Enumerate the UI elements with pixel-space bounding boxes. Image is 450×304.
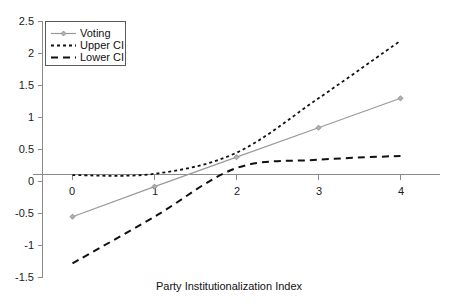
x-tick-label-3: 3 xyxy=(316,185,322,197)
x-tick-label-2: 2 xyxy=(234,185,240,197)
y-tick-label-neg0_5: -0.5 xyxy=(15,207,34,219)
y-tick-label-0: 0 xyxy=(28,175,34,187)
series-line-lower-ci xyxy=(73,156,401,264)
x-tick-label-0: 0 xyxy=(69,185,75,197)
y-axis-ticks xyxy=(38,22,43,278)
y-tick-label-2_5: 2.5 xyxy=(19,15,34,27)
y-tick-label-1: 1 xyxy=(28,111,34,123)
legend-label-upper-ci: Upper CI xyxy=(80,39,124,51)
legend-label-lower-ci: Lower CI xyxy=(80,51,124,63)
data-point-marker xyxy=(398,96,403,101)
x-tick-label-4: 4 xyxy=(398,185,404,197)
y-tick-label-2: 2 xyxy=(28,47,34,59)
data-point-marker xyxy=(316,125,321,130)
x-axis-title: Party Institutionalization Index xyxy=(156,280,303,292)
line-chart: 2.5 2 1.5 1 0.5 0 -0.5 -1 -1.5 0 1 2 3 4 xyxy=(0,0,450,304)
legend-label-voting: Voting xyxy=(80,27,111,39)
legend: Voting Upper CI Lower CI xyxy=(46,22,126,66)
series-markers-voting xyxy=(70,96,403,220)
data-point-marker xyxy=(70,214,75,219)
data-point-marker xyxy=(234,155,239,160)
y-tick-label-neg1_5: -1.5 xyxy=(15,271,34,283)
y-tick-label-neg1: -1 xyxy=(24,239,34,251)
chart-container: 2.5 2 1.5 1 0.5 0 -0.5 -1 -1.5 0 1 2 3 4 xyxy=(0,0,450,304)
y-tick-label-1_5: 1.5 xyxy=(19,79,34,91)
y-tick-label-0_5: 0.5 xyxy=(19,143,34,155)
